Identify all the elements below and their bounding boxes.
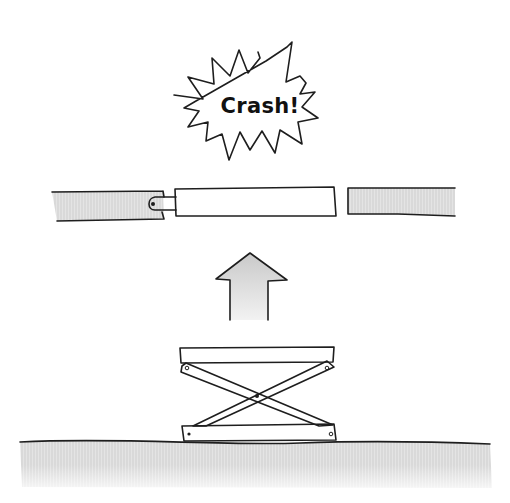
lift-pivot: [255, 394, 259, 398]
illustration-canvas: [0, 0, 510, 503]
ground: [18, 440, 494, 491]
up-arrow-icon: [216, 253, 287, 320]
lift-top-plate: [180, 347, 334, 363]
scissor-lift: [180, 347, 336, 441]
crash-label: Crash!: [205, 94, 315, 118]
middle-beam: [175, 187, 336, 216]
right-beam: [347, 188, 455, 216]
left-beam: [52, 191, 164, 221]
